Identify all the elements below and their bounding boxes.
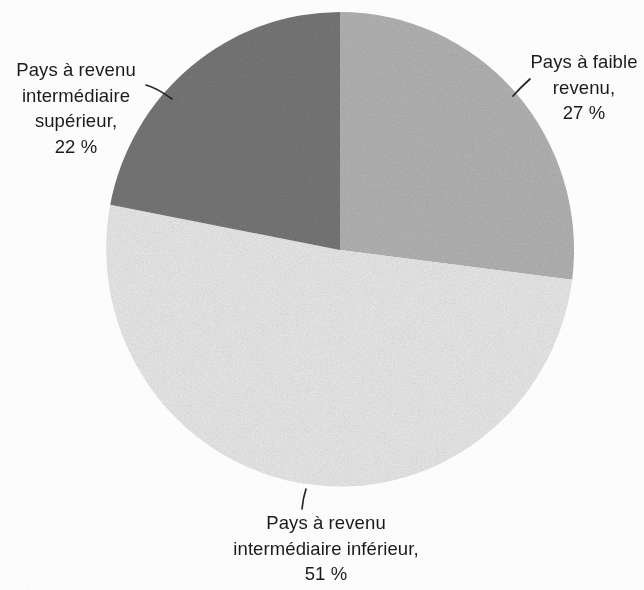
slice-label-upper-middle-income: Pays à revenu intermédiaire supérieur, 2… [4, 57, 148, 159]
pie-chart-figure: Pays à revenu intermédiaire supérieur, 2… [0, 0, 644, 590]
leader-line-lower-middle-income [302, 489, 306, 509]
slice-label-lower-middle-income: Pays à revenu intermédiaire inférieur, 5… [176, 510, 476, 587]
slice-label-low-income: Pays à faible revenu, 27 % [524, 49, 644, 126]
